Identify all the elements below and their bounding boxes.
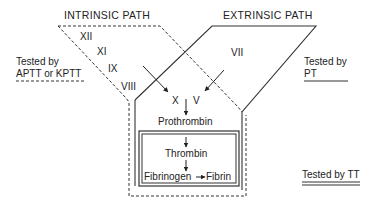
factor-xii: XII xyxy=(80,31,92,42)
aptt-legend-line1: Tested by xyxy=(16,56,59,67)
aptt-legend-line2: APTT or KPTT xyxy=(16,68,81,79)
factor-ix: IX xyxy=(108,63,118,74)
factor-xi: XI xyxy=(97,46,106,57)
pt-legend-line2: PT xyxy=(304,68,317,79)
tt-legend-label: Tested by TT xyxy=(302,169,360,180)
factor-v: V xyxy=(193,95,200,106)
factor-viii: VIII xyxy=(121,81,136,92)
pt-legend-line1: Tested by xyxy=(304,56,347,67)
prothrombin-label: Prothrombin xyxy=(158,116,212,127)
extrinsic-path-label: EXTRINSIC PATH xyxy=(223,9,313,21)
arrow-to-v xyxy=(205,70,224,91)
fibrin-label: Fibrin xyxy=(206,171,231,182)
fibrinogen-label: Fibrinogen xyxy=(144,171,191,182)
factor-vii: VII xyxy=(231,47,243,58)
coagulation-diagram: INTRINSIC PATH EXTRINSIC PATH XII XI IX … xyxy=(0,0,376,204)
factor-x: X xyxy=(172,95,179,106)
thrombin-label: Thrombin xyxy=(165,148,207,159)
intrinsic-path-label: INTRINSIC PATH xyxy=(64,9,150,21)
extrinsic-path-boundary xyxy=(135,26,316,190)
